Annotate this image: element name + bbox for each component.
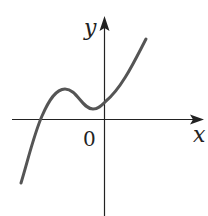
y-axis-label: y <box>83 15 97 40</box>
x-axis-label: x <box>193 122 206 147</box>
cubic-graph: y x 0 <box>0 0 208 216</box>
origin-label: 0 <box>83 127 96 151</box>
function-curve <box>21 39 146 183</box>
